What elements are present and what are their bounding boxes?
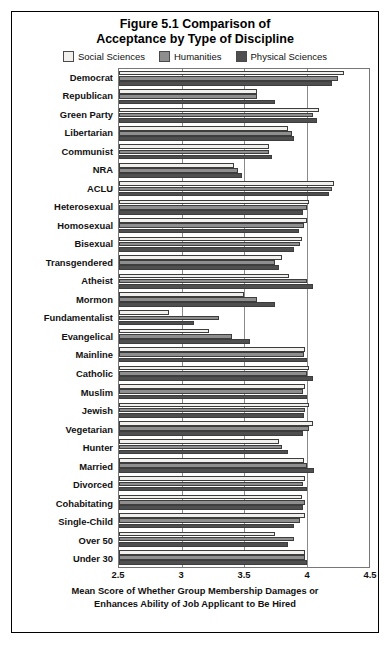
figure-title: Figure 5.1 Comparison of Acceptance by T… <box>12 12 378 46</box>
category-axis: DemocratRepublicanGreen PartyLibertarian… <box>20 68 118 568</box>
category-label: Evangelical <box>20 327 118 346</box>
bar-group <box>119 198 369 216</box>
bar <box>119 352 304 357</box>
category-label: Heterosexual <box>20 198 118 217</box>
bar <box>119 187 332 192</box>
bar <box>119 334 232 339</box>
bar <box>119 542 288 547</box>
category-label: Vegetarian <box>20 420 118 439</box>
bar <box>119 408 305 413</box>
category-label: Under 30 <box>20 549 118 568</box>
bar <box>119 389 303 394</box>
bar-group <box>119 69 369 87</box>
bar <box>119 255 282 260</box>
bar <box>119 89 257 94</box>
bar <box>119 339 250 344</box>
legend-swatch-icon <box>236 51 247 62</box>
title-line-1: Figure 5.1 Comparison of <box>12 17 378 32</box>
bar <box>119 476 305 481</box>
bar <box>119 450 288 455</box>
bar <box>119 395 307 400</box>
x-tick-label: 4 <box>304 569 309 580</box>
x-axis: 2.533.544.5 <box>118 568 370 584</box>
bar <box>119 210 303 215</box>
bar <box>119 403 309 408</box>
bar <box>119 279 307 284</box>
bar <box>119 200 309 205</box>
bar <box>119 150 269 155</box>
title-line-2: Acceptance by Type of Discipline <box>12 32 378 47</box>
bar <box>119 229 299 234</box>
bar <box>119 108 319 113</box>
bar <box>119 316 219 321</box>
bar <box>119 192 329 197</box>
bar-group <box>119 548 369 566</box>
bar <box>119 118 317 123</box>
bar-group <box>119 217 369 235</box>
caption-line-2: Enhances Ability of Job Applicant to Be … <box>22 598 368 611</box>
category-label: Democrat <box>20 68 118 87</box>
bar <box>119 310 169 315</box>
bar <box>119 284 313 289</box>
bar <box>119 500 305 505</box>
bar <box>119 100 275 105</box>
plot-wrapper: DemocratRepublicanGreen PartyLibertarian… <box>20 68 370 584</box>
legend-entry: Humanities <box>159 51 222 62</box>
bar <box>119 439 279 444</box>
bar <box>119 458 304 463</box>
bar <box>119 205 307 210</box>
bar-group <box>119 253 369 271</box>
bar-group <box>119 327 369 345</box>
bar-group <box>119 87 369 105</box>
bar <box>119 532 275 537</box>
category-label: Green Party <box>20 105 118 124</box>
bar-group <box>119 401 369 419</box>
bar <box>119 260 275 265</box>
bar <box>119 274 289 279</box>
category-label: Communist <box>20 142 118 161</box>
bar <box>119 463 307 468</box>
category-label: Fundamentalist <box>20 309 118 328</box>
bar <box>119 426 309 431</box>
bar <box>119 265 279 270</box>
bar <box>119 347 305 352</box>
bar <box>119 94 257 99</box>
bar-group <box>119 346 369 364</box>
bar <box>119 413 304 418</box>
bar-group <box>119 456 369 474</box>
chart-legend: Social SciencesHumanitiesPhysical Scienc… <box>12 51 378 62</box>
bar <box>119 81 332 86</box>
bar <box>119 537 294 542</box>
plot-area <box>118 68 370 568</box>
category-label: Hunter <box>20 438 118 457</box>
bar <box>119 126 288 131</box>
category-label: Transgendered <box>20 253 118 272</box>
bar <box>119 131 292 136</box>
category-label: Bisexual <box>20 235 118 254</box>
bar-group <box>119 272 369 290</box>
category-label: Mormon <box>20 290 118 309</box>
bar <box>119 366 309 371</box>
bar-group <box>119 309 369 327</box>
bar <box>119 237 302 242</box>
legend-entry: Social Sciences <box>63 51 145 62</box>
bar <box>119 223 304 228</box>
bar <box>119 384 305 389</box>
bar <box>119 113 313 118</box>
bar-group <box>119 290 369 308</box>
category-label: Cohabitating <box>20 494 118 513</box>
legend-label: Physical Sciences <box>251 51 328 62</box>
bar <box>119 181 334 186</box>
bar <box>119 495 302 500</box>
bar-group <box>119 124 369 142</box>
bar <box>119 468 314 473</box>
bar <box>119 358 307 363</box>
x-tick-label: 4.5 <box>363 569 376 580</box>
bar <box>119 297 257 302</box>
bar <box>119 513 305 518</box>
category-label: Mainline <box>20 346 118 365</box>
bar-group <box>119 180 369 198</box>
category-label: Catholic <box>20 364 118 383</box>
bar <box>119 76 338 81</box>
figure-caption: Mean Score of Whether Group Membership D… <box>12 585 378 610</box>
